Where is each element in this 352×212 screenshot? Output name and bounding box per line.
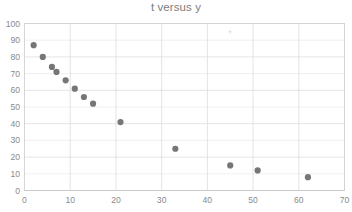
- faint-speck-icon: [230, 30, 231, 33]
- horizontal-gridlines: [25, 24, 345, 191]
- data-point: [255, 167, 261, 173]
- data-point: [63, 77, 69, 83]
- scatter-chart: t versus y 0102030405060708090100 010203…: [0, 0, 352, 212]
- x-axis-tick-label: 70: [340, 195, 350, 205]
- data-point-series: [31, 42, 311, 180]
- y-axis-tick-label: 0: [15, 186, 20, 196]
- data-point: [40, 54, 46, 60]
- y-axis-tick-label: 10: [10, 169, 20, 179]
- data-point: [72, 86, 78, 92]
- x-axis-tick-label: 40: [203, 195, 213, 205]
- data-point: [172, 146, 178, 152]
- y-axis-tick-label: 90: [10, 35, 20, 45]
- y-axis-tick-label: 60: [10, 85, 20, 95]
- x-axis-tick-labels: 010203040506070: [22, 195, 349, 205]
- y-axis-tick-label: 40: [10, 119, 20, 129]
- x-axis-tick-label: 50: [248, 195, 258, 205]
- x-axis-tick-label: 30: [157, 195, 167, 205]
- data-point: [90, 101, 96, 107]
- y-axis-tick-label: 100: [6, 19, 21, 29]
- x-axis-tick-label: 10: [65, 195, 75, 205]
- data-point: [53, 69, 59, 75]
- data-point: [49, 64, 55, 70]
- faint-speck-icon: [229, 30, 232, 33]
- x-axis-tick-label: 60: [294, 195, 304, 205]
- y-axis-tick-label: 30: [10, 135, 20, 145]
- y-axis-tick-labels: 0102030405060708090100: [6, 19, 21, 196]
- y-axis-tick-label: 20: [10, 152, 20, 162]
- data-point: [305, 174, 311, 180]
- y-axis-tick-label: 50: [10, 102, 20, 112]
- data-point: [81, 94, 87, 100]
- data-point: [117, 119, 123, 125]
- x-axis-tick-label: 20: [111, 195, 121, 205]
- x-axis-tick-label: 0: [22, 195, 27, 205]
- data-point: [31, 42, 37, 48]
- y-axis-tick-label: 70: [10, 69, 20, 79]
- plot-area: 0102030405060708090100 010203040506070: [0, 0, 352, 212]
- y-axis-tick-label: 80: [10, 52, 20, 62]
- data-point: [227, 162, 233, 168]
